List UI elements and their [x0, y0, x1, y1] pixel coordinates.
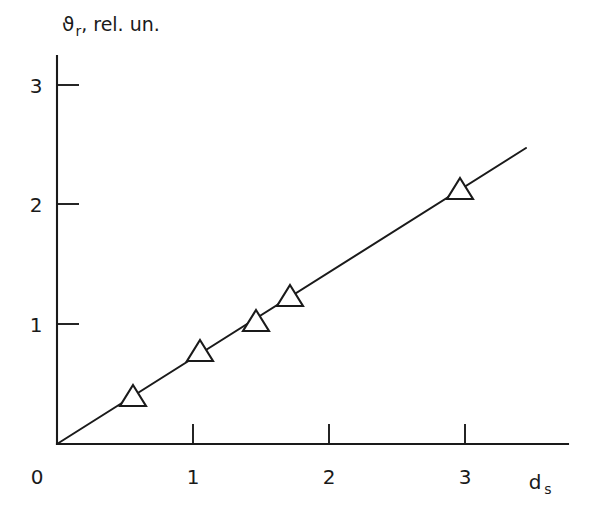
- data-point-marker: [187, 340, 213, 361]
- x-tick-label-1: 1: [187, 465, 200, 489]
- origin-label: 0: [31, 465, 44, 489]
- data-point-marker: [277, 285, 303, 306]
- y-tick-label-3: 3: [30, 74, 43, 98]
- x-tick-label-2: 2: [323, 465, 336, 489]
- y-tick-label-2: 2: [30, 193, 43, 217]
- plot-area: 3 2 1 0 1 2 3 d s: [0, 0, 590, 506]
- x-axis-title-symbol: d: [529, 470, 542, 494]
- data-point-marker: [120, 385, 146, 406]
- y-tick-label-1: 1: [30, 313, 43, 337]
- chart-figure: ϑr, rel. un. 3 2 1 0 1 2 3 d s: [0, 0, 590, 506]
- data-point-marker: [447, 178, 473, 199]
- x-axis-title-subscript: s: [544, 481, 551, 497]
- x-tick-label-3: 3: [459, 465, 472, 489]
